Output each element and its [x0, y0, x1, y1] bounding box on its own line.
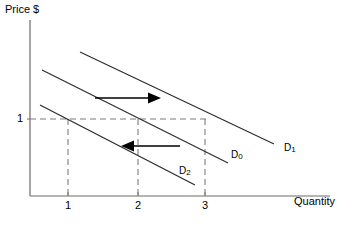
curve-label-d1-subscript: 1	[291, 145, 295, 154]
curve-label-d2-subscript: 2	[186, 168, 190, 177]
shift-left-arrow	[121, 141, 180, 152]
x-axis-title: Quantity	[294, 196, 335, 207]
curve-label-d1: D1	[284, 143, 296, 153]
demand-curve-d0	[42, 70, 228, 163]
curve-label-d0-subscript: 0	[238, 152, 242, 161]
curve-label-d0: D0	[231, 150, 243, 160]
x-tick-label-3: 3	[199, 200, 211, 211]
plot-canvas	[0, 0, 352, 228]
demand-shift-figure: Price $ Quantity 1 1 2 3 D0 D1 D2	[0, 0, 352, 228]
x-tick-label-2: 2	[132, 200, 144, 211]
demand-curve-d2	[40, 105, 195, 185]
y-tick-label-1: 1	[14, 113, 26, 124]
y-axis-title: Price $	[5, 4, 39, 15]
x-tick-label-1: 1	[62, 200, 74, 211]
curve-label-d2: D2	[179, 166, 191, 176]
